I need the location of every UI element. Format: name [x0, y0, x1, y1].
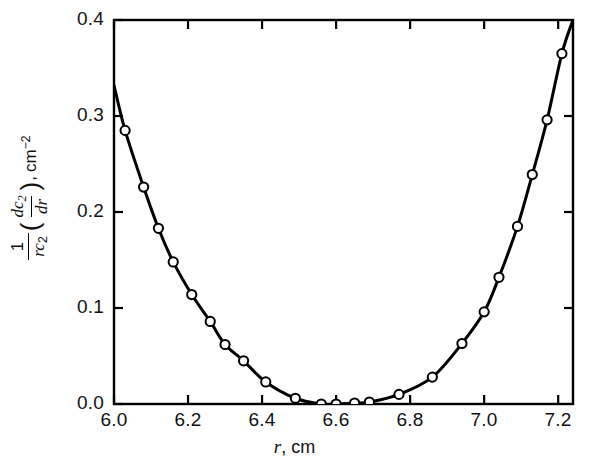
y-axis-denom-sub: 2	[37, 236, 51, 243]
y-axis-label-rotator: 1 rc2 ( dc2 dr ) , cm−2	[0, 88, 60, 308]
data-point-marker	[394, 390, 403, 399]
xtick-label-3: 6.6	[301, 409, 371, 431]
ytick-label-0: 0.4	[48, 8, 104, 30]
y-axis-deriv-dr: r	[32, 199, 51, 206]
data-point-marker	[457, 339, 466, 348]
y-axis-deriv-dd: d	[32, 206, 51, 215]
data-series	[114, 20, 573, 409]
y-axis-unit-cm: cm	[22, 149, 41, 172]
y-axis-close-paren: )	[17, 182, 43, 191]
data-point-marker	[239, 356, 248, 365]
data-point-marker	[513, 222, 522, 231]
y-axis-derivative-fraction: dc2 dr	[9, 192, 50, 220]
data-point-marker	[317, 399, 326, 408]
data-point-marker	[121, 126, 130, 135]
y-axis-label-fraction: 1 rc2	[9, 233, 50, 259]
y-axis-deriv-denominator: dr	[31, 196, 51, 217]
y-axis-deriv-d: d	[8, 209, 27, 218]
data-point-marker	[154, 224, 163, 233]
xtick-label-2: 6.4	[227, 409, 297, 431]
data-point-marker	[169, 257, 178, 266]
figure-container: 0.4 0.3 0.2 0.1 0.0 6.0 6.2 6.4 6.6 6.8 …	[0, 0, 589, 466]
axis-frame	[114, 20, 573, 404]
data-point-marker	[261, 377, 270, 386]
y-axis-denom-c: c	[29, 243, 48, 251]
data-curve	[114, 20, 573, 404]
y-axis-comma: ,	[21, 176, 38, 181]
data-point-marker	[365, 397, 374, 406]
y-axis-open-paren: (	[17, 223, 43, 232]
y-axis-label-numerator: 1	[9, 239, 28, 254]
data-point-marker	[557, 49, 566, 58]
data-point-marker	[480, 307, 489, 316]
data-point-marker	[187, 290, 196, 299]
data-point-marker	[428, 373, 437, 382]
y-axis-unit-exponent: −2	[19, 135, 33, 149]
data-point-marker	[220, 340, 229, 349]
y-axis-label-denominator: rc2	[28, 233, 50, 259]
data-point-marker	[332, 399, 341, 408]
data-point-marker	[528, 170, 537, 179]
y-axis-deriv-sub: 2	[16, 195, 30, 201]
y-axis-label: 1 rc2 ( dc2 dr ) , cm−2	[9, 135, 50, 260]
y-axis-deriv-c: c	[8, 202, 27, 210]
xtick-label-1: 6.2	[153, 409, 223, 431]
data-point-marker	[139, 182, 148, 191]
xtick-label-5: 7.0	[449, 409, 519, 431]
y-axis-denom-r: r	[29, 251, 48, 257]
data-point-marker	[494, 273, 503, 282]
xtick-label-0: 6.0	[79, 409, 149, 431]
data-point-marker	[206, 317, 215, 326]
data-point-marker	[350, 398, 359, 407]
y-axis-deriv-numerator: dc2	[9, 192, 30, 220]
data-point-marker	[542, 115, 551, 124]
data-point-marker	[291, 394, 300, 403]
xtick-label-4: 6.8	[375, 409, 445, 431]
y-axis-unit: cm−2	[20, 135, 39, 172]
x-axis-label: r, cm	[0, 436, 589, 458]
x-axis-label-unit: , cm	[281, 437, 315, 457]
xtick-label-6: 7.2	[523, 409, 589, 431]
